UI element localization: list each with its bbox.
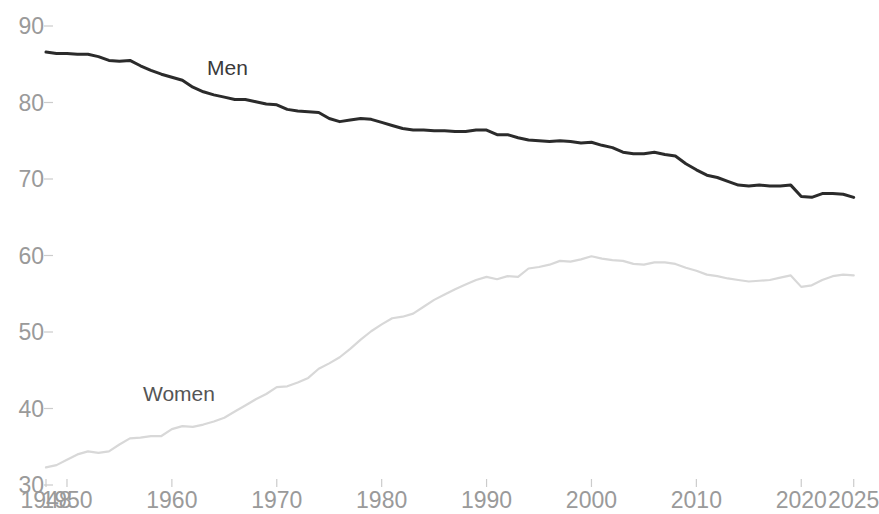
x-axis-ticks xyxy=(46,479,854,487)
y-tick-label-70: 70 xyxy=(0,166,44,193)
y-tick-label-50: 50 xyxy=(0,319,44,346)
x-tick-label-1970: 1970 xyxy=(251,487,302,514)
x-tick-label-2000: 2000 xyxy=(566,487,617,514)
y-tick-label-60: 60 xyxy=(0,243,44,270)
x-tick-label-2025: 2025 xyxy=(828,487,879,514)
y-axis-ticks xyxy=(44,26,53,485)
x-tick-label-1960: 1960 xyxy=(146,487,197,514)
y-tick-label-80: 80 xyxy=(0,90,44,117)
y-tick-label-90: 90 xyxy=(0,13,44,40)
y-tick-label-40: 40 xyxy=(0,396,44,423)
series-label-women: Women xyxy=(143,382,215,406)
series-line-women xyxy=(46,256,854,467)
x-tick-label-2010: 2010 xyxy=(671,487,722,514)
x-tick-label-1950: 1950 xyxy=(41,487,92,514)
x-tick-label-1980: 1980 xyxy=(356,487,407,514)
x-tick-label-2020: 2020 xyxy=(776,487,827,514)
x-tick-label-1990: 1990 xyxy=(461,487,512,514)
series-label-men: Men xyxy=(207,56,248,80)
series-line-men xyxy=(46,52,854,197)
